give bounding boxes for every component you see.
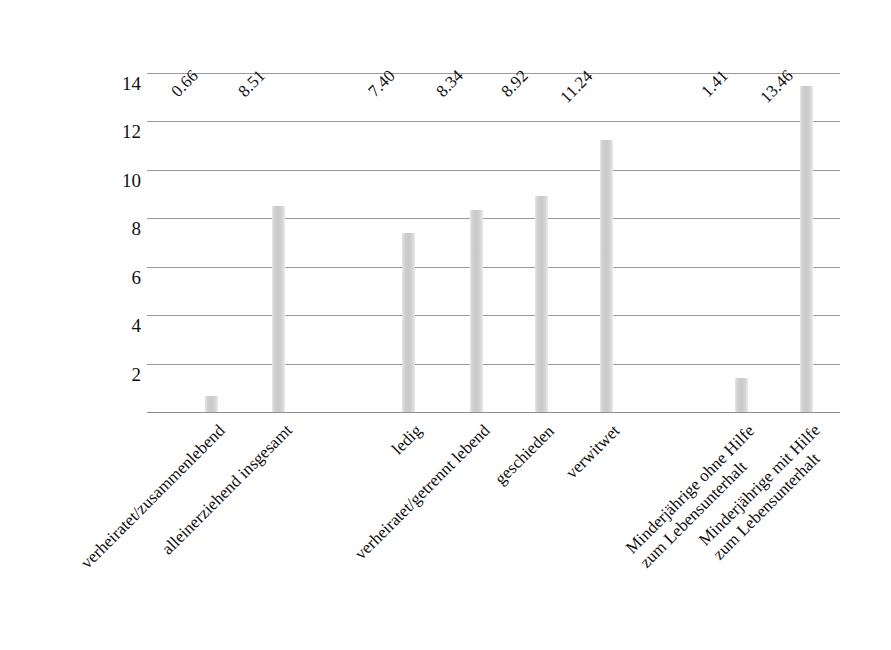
gridline-4: 4 [147,315,840,316]
x-axis-category-label-line: geschieden [491,421,558,488]
bar [600,140,613,412]
gridline-2: 2 [147,364,840,365]
x-axis-category-label-line: alleinerziehend insgesamt [158,421,296,559]
bar-chart: 1412108642 0.668.517.408.348.9211.241.41… [0,0,891,650]
y-axis-tick-label: 8 [97,219,147,238]
gridline-8: 8 [147,218,840,219]
x-axis-category-label: ledig [388,421,426,459]
bar [800,86,813,412]
gridline-6: 6 [147,267,840,268]
x-axis-baseline [147,412,840,413]
bar [205,396,218,412]
y-axis-tick-label: 14 [97,74,147,93]
y-axis-tick-label: 12 [97,122,147,141]
plot-area: 1412108642 [147,73,840,412]
bar [402,233,415,412]
y-axis-tick-label: 6 [97,268,147,287]
bar [735,378,748,412]
gridline-12: 12 [147,121,840,122]
x-axis-category-label-line: ledig [388,421,425,458]
x-axis-category-label: verheiratet/getrennt lebend [351,421,494,564]
x-axis-category-label-line: verheiratet/getrennt lebend [351,421,494,564]
bar [470,210,483,412]
y-axis-tick-label: 10 [97,171,147,190]
y-axis-tick-label: 2 [97,365,147,384]
gridline-10: 10 [147,170,840,171]
x-axis-category-label: geschieden [491,421,559,489]
x-axis-category-label-line: verwitwet [562,421,624,483]
y-axis-tick-label: 4 [97,316,147,335]
bar [535,196,548,412]
x-axis-category-label: alleinerziehend insgesamt [158,421,297,560]
x-axis-category-label: verwitwet [562,421,624,483]
bar [272,206,285,412]
